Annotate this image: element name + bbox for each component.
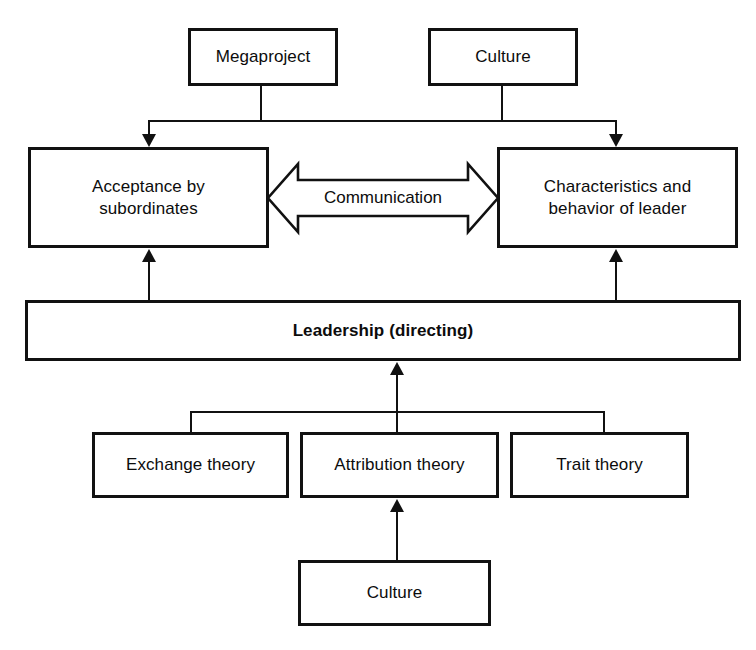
node-leadership-directing-label: Leadership (directing): [287, 320, 480, 342]
node-megaproject-label: Megaproject: [210, 46, 317, 68]
node-characteristics-and-behavior-of-leader[interactable]: Characteristics and behavior of leader: [497, 147, 738, 248]
node-culture-bottom[interactable]: Culture: [298, 560, 491, 626]
node-megaproject[interactable]: Megaproject: [188, 28, 338, 86]
node-trait-theory[interactable]: Trait theory: [510, 432, 689, 498]
node-characteristics-and-behavior-of-leader-label: Characteristics and behavior of leader: [538, 176, 697, 220]
connector-top-distribution-bar: [148, 120, 617, 122]
communication-double-arrow-icon: [268, 158, 498, 238]
node-attribution-theory-label: Attribution theory: [328, 454, 470, 476]
connector-leadership-to-characteristics: [615, 262, 617, 301]
node-culture-bottom-label: Culture: [361, 582, 429, 604]
arrowhead-up-to-leadership: [390, 362, 404, 375]
node-exchange-theory-label: Exchange theory: [120, 454, 261, 476]
node-culture-top[interactable]: Culture: [428, 28, 578, 86]
node-exchange-theory[interactable]: Exchange theory: [92, 432, 289, 498]
arrowhead-down-to-acceptance: [142, 134, 156, 147]
node-acceptance-by-subordinates-label: Acceptance by subordinates: [86, 176, 211, 220]
connector-exchange-theory-stem: [190, 411, 192, 433]
arrowhead-up-to-attribution-theory: [390, 499, 404, 512]
node-acceptance-by-subordinates[interactable]: Acceptance by subordinates: [28, 147, 269, 248]
connector-trait-theory-stem: [603, 411, 605, 433]
diagram-canvas: Megaproject Culture Acceptance by subord…: [0, 0, 756, 650]
node-leadership-directing[interactable]: Leadership (directing): [25, 300, 741, 361]
arrowhead-up-to-acceptance: [142, 249, 156, 262]
node-trait-theory-label: Trait theory: [550, 454, 649, 476]
connector-attribution-theory-stem: [396, 411, 398, 433]
connector-theories-to-leadership: [396, 375, 398, 412]
node-culture-top-label: Culture: [469, 46, 537, 68]
connector-leadership-to-acceptance: [148, 262, 150, 301]
arrowhead-down-to-characteristics: [609, 134, 623, 147]
node-attribution-theory[interactable]: Attribution theory: [300, 432, 499, 498]
connector-megaproject-stem: [260, 86, 262, 122]
connector-culture-bottom-to-attribution: [396, 512, 398, 560]
connector-culture-top-stem: [501, 86, 503, 122]
arrowhead-up-to-characteristics: [609, 249, 623, 262]
